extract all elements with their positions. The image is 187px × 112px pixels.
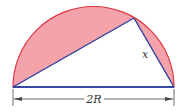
arrowhead-left bbox=[14, 97, 22, 101]
diameter-label: 2R bbox=[85, 93, 101, 106]
arrowhead-right bbox=[165, 97, 173, 101]
side-x-label: x bbox=[142, 48, 149, 61]
semicircle-diagram: 2R x bbox=[0, 0, 187, 112]
